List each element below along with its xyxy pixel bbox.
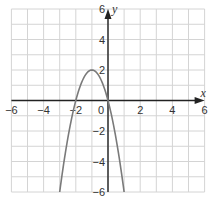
y-tick-label: 2 <box>99 64 105 76</box>
x-tick-label: 6 <box>202 104 208 116</box>
x-tick-label: 2 <box>137 104 143 116</box>
parabola-chart: −6−4−20246642−2−4−6 x y <box>0 0 214 204</box>
x-tick-label: 0 <box>98 104 104 116</box>
y-tick-label: 4 <box>99 34 105 46</box>
y-tick-label: −6 <box>92 186 105 198</box>
y-tick-label: −2 <box>92 125 105 137</box>
x-tick-label: −2 <box>70 104 83 116</box>
y-axis-arrow-icon <box>105 9 112 19</box>
x-tick-label: −6 <box>5 104 18 116</box>
x-tick-label: −4 <box>37 104 50 116</box>
y-axis-label: y <box>111 2 118 16</box>
x-tick-label: 4 <box>169 104 175 116</box>
x-axis-label: x <box>200 86 207 100</box>
y-tick-label: 6 <box>99 3 105 15</box>
y-tick-label: −4 <box>92 156 105 168</box>
